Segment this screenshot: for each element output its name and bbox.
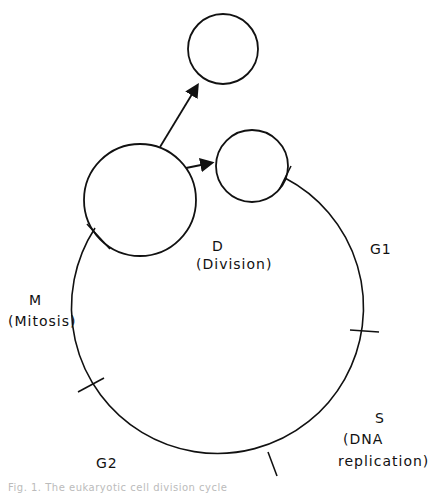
label-g1: G1 (370, 241, 392, 257)
tick-g1-start (279, 166, 291, 190)
label-s: S (375, 410, 385, 426)
tick-g1-s (350, 330, 379, 332)
figure-caption: Fig. 1. The eukaryotic cell division cyc… (8, 482, 227, 493)
daughter-cell-exit (188, 14, 258, 84)
label-g2: G2 (96, 455, 118, 471)
tick-s-g2 (268, 452, 277, 476)
label-division: (Division) (196, 256, 272, 272)
cycle-ring (71, 178, 363, 453)
arrow-to-exit-cell (160, 86, 197, 147)
label-d: D (212, 238, 224, 254)
label-replication: replication) (338, 453, 429, 469)
label-dna: (DNA (343, 431, 383, 447)
label-mitosis: (Mitosis) (8, 313, 76, 329)
label-m: M (29, 292, 42, 308)
daughter-cell-on-cycle (216, 130, 288, 202)
arrow-to-cycle-cell (186, 163, 211, 168)
